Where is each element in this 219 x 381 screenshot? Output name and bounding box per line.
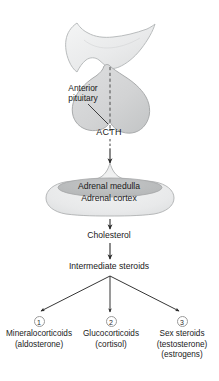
- outcome-extra-3: (estrogens): [145, 350, 219, 361]
- cholesterol-label: Cholesterol: [69, 231, 149, 241]
- acth-label: ACTH: [79, 127, 139, 137]
- adrenal-cortex-label: Adrenal cortex: [54, 194, 164, 204]
- outcome-name-2: Glucocorticoids: [76, 329, 146, 340]
- outcome-badge-1: 1: [34, 316, 45, 327]
- outcome-example-3: (testosterone): [145, 340, 219, 351]
- arrow-to-sex-steroids: [110, 276, 179, 311]
- intermediate-steroids-label: Intermediate steroids: [49, 262, 169, 272]
- outcome-example-2: (cortisol): [76, 340, 146, 351]
- outcome-badge-2: 2: [106, 316, 117, 327]
- adrenal-medulla-label: Adrenal medulla: [54, 182, 164, 192]
- outcome-name-1: Mineralocorticoids: [0, 329, 78, 340]
- arrow-to-mineralocorticoids: [41, 276, 110, 311]
- anterior-pituitary-label: Anterior pituitary: [56, 84, 110, 104]
- outcome-badge-3: 3: [177, 316, 188, 327]
- outcome-sex-steroids: 3 Sex steroids (testosterone) (estrogens…: [145, 316, 219, 361]
- adrenal-steroidogenesis-diagram: Anterior pituitary ACTH Adrenal medulla …: [0, 0, 219, 381]
- outcome-name-3: Sex steroids: [145, 329, 219, 340]
- hypothalamus-shape: [66, 23, 155, 72]
- outcome-glucocorticoids: 2 Glucocorticoids (cortisol): [76, 316, 146, 350]
- outcome-mineralocorticoids: 1 Mineralocorticoids (aldosterone): [0, 316, 78, 350]
- outcome-example-1: (aldosterone): [0, 340, 78, 351]
